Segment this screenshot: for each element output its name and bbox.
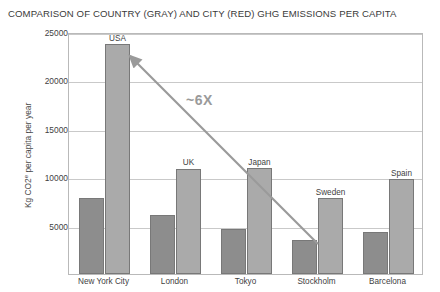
bar-country-sweden	[318, 198, 343, 274]
country-label-spain: Spain	[391, 169, 412, 178]
y-axis-title: Kg CO2e per capita per year	[23, 65, 34, 245]
x-tick-label-london: London	[161, 277, 188, 286]
bar-city-tokyo	[221, 229, 246, 274]
bar-country-japan	[247, 168, 272, 274]
bar-city-london	[150, 215, 175, 274]
y-tick-label-5000: 5000	[24, 222, 68, 232]
bar-country-spain	[389, 179, 414, 274]
plot-area: USAUKJapanSwedenSpain	[68, 33, 423, 275]
x-tick-label-barcelona: Barcelona	[369, 277, 406, 286]
ratio-annotation-label: ~6X	[186, 92, 213, 108]
bar-city-new-york-city	[79, 198, 104, 274]
chart-title: COMPARISON OF COUNTRY (GRAY) AND CITY (R…	[8, 8, 432, 19]
x-tick-label-stockholm: Stockholm	[297, 277, 335, 286]
country-label-sweden: Sweden	[316, 188, 346, 197]
y-tick-label-20000: 20000	[24, 76, 68, 86]
bar-country-usa	[105, 44, 130, 274]
x-tick-label-new-york-city: New York City	[78, 277, 129, 286]
y-tick-label-25000: 25000	[24, 28, 68, 38]
ghg-emissions-chart: COMPARISON OF COUNTRY (GRAY) AND CITY (R…	[0, 0, 440, 292]
y-axis-title-suffix: per capita per year	[23, 103, 33, 175]
country-label-japan: Japan	[248, 158, 270, 167]
y-tick-label-15000: 15000	[24, 125, 68, 135]
country-label-uk: UK	[183, 158, 194, 167]
bar-country-uk	[176, 169, 201, 275]
bar-city-barcelona	[363, 232, 388, 274]
bar-city-stockholm	[292, 240, 317, 274]
x-tick-label-tokyo: Tokyo	[235, 277, 256, 286]
country-label-usa: USA	[109, 34, 126, 43]
y-tick-label-10000: 10000	[24, 173, 68, 183]
